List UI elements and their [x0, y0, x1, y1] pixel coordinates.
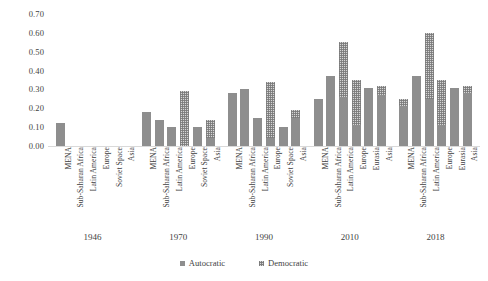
bar-group	[352, 14, 361, 146]
bar-group	[193, 14, 202, 146]
category-label: Europe	[445, 147, 454, 169]
year-label: 1946	[83, 232, 101, 242]
y-axis-tick-label: 0.40	[29, 66, 44, 76]
category-label: MENA	[149, 147, 158, 170]
category-label: Latin America	[432, 147, 441, 191]
category-label: Sub-Saharan Africa	[334, 147, 343, 208]
category-label: MENA	[407, 147, 416, 170]
bar-autocratic	[228, 93, 237, 146]
bar-autocratic	[167, 127, 176, 146]
bar-democratic	[180, 91, 189, 146]
group-axis-labels: 19461970199020102018	[48, 232, 480, 248]
bar-autocratic	[155, 120, 164, 146]
bar-autocratic	[412, 76, 421, 146]
category-label: Sub-Saharan Africa	[76, 147, 85, 208]
bar-autocratic	[326, 76, 335, 146]
bar-autocratic	[352, 125, 361, 146]
year-label: 2018	[427, 232, 445, 242]
category-label: Eurasia	[372, 147, 381, 170]
bar-autocratic	[364, 88, 373, 146]
legend-swatch-democratic-icon	[259, 261, 264, 266]
category-label: Asia	[127, 147, 136, 161]
bar-group	[180, 14, 189, 146]
bar-autocratic	[193, 127, 202, 146]
category-label: Soviet Space	[200, 147, 209, 187]
legend-swatch-autocratic-icon	[180, 261, 185, 266]
bar-autocratic	[240, 89, 249, 146]
bar-autocratic	[266, 138, 275, 146]
bar-group	[291, 14, 300, 146]
legend-item[interactable]: Democratic	[259, 258, 308, 268]
y-axis-tick-label: 0.70	[29, 9, 44, 19]
bar-group	[120, 14, 129, 146]
bar-group	[155, 14, 164, 146]
bar-group	[412, 14, 421, 146]
chart-legend: AutocraticDemocratic	[0, 258, 488, 268]
category-label: Europe	[273, 147, 282, 169]
category-axis-labels: MENASub-Saharan AfricaLatin AmericaEurop…	[48, 147, 480, 223]
category-label: Europe	[102, 147, 111, 169]
y-axis-tick-label: 0.50	[29, 47, 44, 57]
bar-group	[94, 14, 103, 146]
legend-label: Democratic	[268, 258, 308, 268]
bar-autocratic	[56, 123, 65, 146]
bar-autocratic	[450, 88, 459, 146]
bar-group	[377, 14, 386, 146]
legend-label: Autocratic	[189, 258, 225, 268]
category-label: MENA	[64, 147, 73, 170]
category-label: Sub-Saharan Africa	[248, 147, 257, 208]
category-label: MENA	[321, 147, 330, 170]
y-axis-tick-label: 0.30	[29, 84, 44, 94]
bar-group	[167, 14, 176, 146]
bar-group	[266, 14, 275, 146]
category-label: Eurasia	[458, 147, 467, 170]
y-axis: 0.000.100.200.300.400.500.600.70	[0, 14, 44, 146]
y-axis-tick-label: 0.20	[29, 103, 44, 113]
bar-autocratic	[339, 97, 348, 146]
bar-group	[425, 14, 434, 146]
bar-group	[399, 14, 408, 146]
bar-group	[82, 14, 91, 146]
bar-group	[69, 14, 78, 146]
bar-autocratic	[437, 125, 446, 146]
bar-chart: 0.000.100.200.300.400.500.600.70 MENASub…	[0, 0, 488, 281]
category-label: Latin America	[175, 147, 184, 191]
bar-group	[107, 14, 116, 146]
bar-group	[206, 14, 215, 146]
category-label: Europe	[188, 147, 197, 169]
category-label: Soviet Space	[115, 147, 124, 187]
category-label: Sub-Saharan Africa	[419, 147, 428, 208]
bar-group	[326, 14, 335, 146]
bar-autocratic	[377, 95, 386, 146]
bar-autocratic	[253, 118, 262, 146]
category-label: Soviet Space	[286, 147, 295, 187]
bar-group	[463, 14, 472, 146]
bar-autocratic	[142, 112, 151, 146]
category-label: MENA	[235, 147, 244, 170]
bar-autocratic	[206, 138, 215, 146]
bar-democratic	[266, 82, 275, 146]
bar-group	[279, 14, 288, 146]
bar-group	[437, 14, 446, 146]
bar-autocratic	[425, 99, 434, 146]
bar-group	[364, 14, 373, 146]
category-label: Latin America	[261, 147, 270, 191]
bar-group	[142, 14, 151, 146]
year-label: 1990	[255, 232, 273, 242]
bar-group	[450, 14, 459, 146]
bar-group	[253, 14, 262, 146]
bar-group	[339, 14, 348, 146]
category-label: Latin America	[89, 147, 98, 191]
legend-item[interactable]: Autocratic	[180, 258, 225, 268]
bar-autocratic	[463, 93, 472, 146]
bar-autocratic	[399, 106, 408, 146]
year-label: 2010	[341, 232, 359, 242]
bar-group	[240, 14, 249, 146]
year-label: 1970	[169, 232, 187, 242]
y-axis-tick-label: 0.60	[29, 28, 44, 38]
y-axis-tick-label: 0.10	[29, 122, 44, 132]
category-label: Asia	[213, 147, 222, 161]
y-axis-tick-label: 0.00	[29, 141, 44, 151]
category-label: Asia	[385, 147, 394, 161]
bar-group	[56, 14, 65, 146]
